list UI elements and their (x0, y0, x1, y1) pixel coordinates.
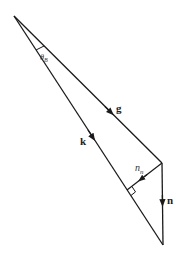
vector-k-label: k (80, 135, 87, 147)
vector-n-line (162, 163, 163, 245)
angle-marker (36, 46, 44, 50)
right-angle-marker (131, 186, 136, 195)
vector-g-arrow-icon (105, 107, 111, 113)
vector-g-line (14, 16, 162, 163)
vector-nn-label: nn (135, 162, 144, 176)
vector-diagram: θB g k n nn (0, 0, 183, 258)
vector-k-arrow-icon (88, 130, 93, 138)
angle-theta-label: θB (40, 53, 48, 63)
vector-g-label: g (116, 102, 122, 114)
vector-n-label: n (167, 194, 173, 206)
